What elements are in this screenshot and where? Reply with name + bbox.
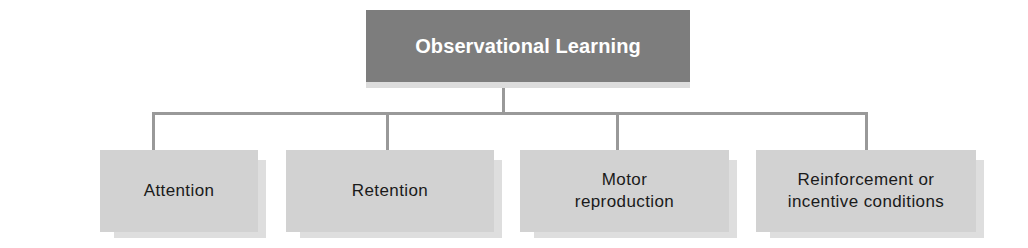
- child-node-motor-reproduction: Motor reproduction: [520, 150, 729, 232]
- child-node-attention: Attention: [100, 150, 258, 232]
- root-node-label: Observational Learning: [415, 35, 641, 58]
- child-node-reinforcement: Reinforcement or incentive conditions: [756, 150, 976, 232]
- root-node-box: Observational Learning: [366, 10, 690, 82]
- child-node-label: Motor reproduction: [575, 169, 674, 213]
- child-node-label: Retention: [352, 180, 428, 202]
- observational-learning-diagram: Observational Learning Attention Retenti…: [0, 0, 1028, 248]
- child-node-label: Reinforcement or incentive conditions: [788, 169, 944, 213]
- connector-root-stem: [502, 88, 505, 114]
- connector-drop-motor-reproduction: [616, 112, 619, 150]
- connector-drop-retention: [386, 112, 389, 150]
- child-node-retention: Retention: [286, 150, 494, 232]
- connector-drop-reinforcement: [865, 112, 868, 150]
- connector-drop-attention: [152, 112, 155, 150]
- child-node-label: Attention: [144, 180, 215, 202]
- connector-horizontal-bar: [152, 112, 868, 115]
